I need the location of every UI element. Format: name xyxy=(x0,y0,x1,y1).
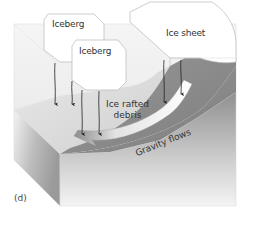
panel-label: (d) xyxy=(14,194,27,203)
ice-sheet-label: Ice sheet xyxy=(166,29,205,38)
ice-rafted-label-line1: Ice rafted xyxy=(106,99,149,110)
iceberg-1-label: Iceberg xyxy=(52,20,84,29)
ice-rafted-label-line2: debris xyxy=(106,110,149,121)
iceberg-2-label: Iceberg xyxy=(79,47,111,56)
ice-rafted-debris-label: Ice rafted debris xyxy=(106,99,149,121)
